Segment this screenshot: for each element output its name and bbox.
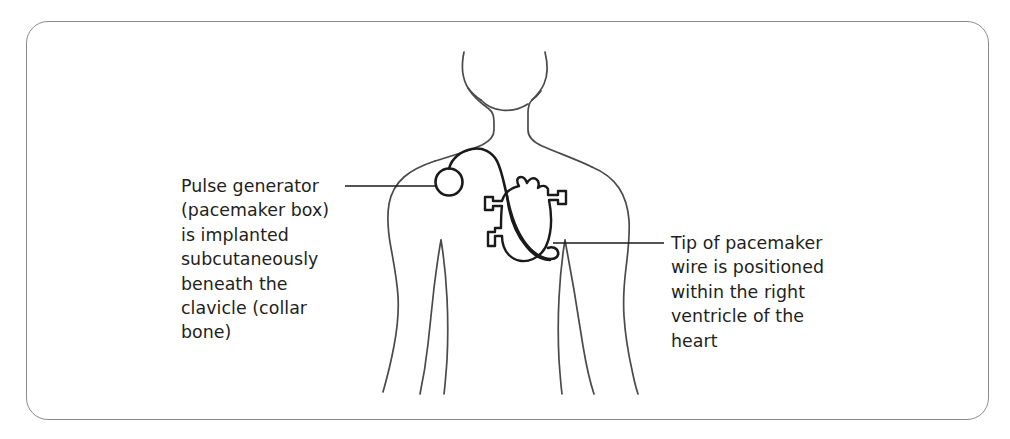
- right-shoulder-and-arm-outline: [592, 167, 638, 394]
- callout-left-pulse-generator: Pulse generator (pacemaker box) is impla…: [181, 174, 356, 345]
- jaw-left-tip: [468, 88, 481, 100]
- jaw-right-tip: [532, 91, 541, 100]
- head-and-neck-outline: [435, 52, 494, 161]
- head-right-jaw-outline: [528, 52, 592, 167]
- pulse-generator: [436, 169, 463, 196]
- right-leg-inner-outline: [558, 240, 565, 394]
- callout-right-wire-tip: Tip of pacemaker wire is positioned with…: [671, 231, 851, 353]
- left-leg-inner-outline: [441, 240, 448, 394]
- pacemaker-device-group: [436, 149, 559, 259]
- right-inner-torso-arm-line: [565, 240, 594, 394]
- figure-root: Pulse generator (pacemaker box) is impla…: [0, 0, 1010, 439]
- left-inner-torso-arm-line: [420, 240, 441, 394]
- body-outline-group: [383, 52, 638, 394]
- pacemaker-diagram: [0, 0, 1010, 439]
